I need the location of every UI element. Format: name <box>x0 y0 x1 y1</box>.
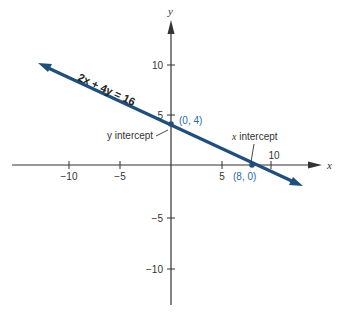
x-tick-label: −5 <box>114 171 126 182</box>
x-axis-arrow-icon <box>308 162 322 169</box>
y-axis-label: y <box>167 5 173 17</box>
x-intercept-point <box>249 162 255 168</box>
y-intercept-point <box>168 121 174 127</box>
y-tick-label: −10 <box>146 264 163 275</box>
y-axis-arrow-icon <box>168 20 175 34</box>
y-tick-label: −5 <box>152 213 164 224</box>
y-intercept-callout: y intercept <box>107 130 168 141</box>
x-intercept-callout-rest: intercept <box>236 131 277 142</box>
x-intercept-coordinates: (8, 0) <box>233 171 256 182</box>
x-axis: x <box>12 159 332 171</box>
x-tick-label: 5 <box>219 171 225 182</box>
x-tick-label: 10 <box>268 150 280 161</box>
y-tick-label: 10 <box>152 60 164 71</box>
y-intercept-callout-text: y intercept <box>107 130 153 141</box>
coordinate-plane: x y −10 −5 5 10 10 5 −5 −10 2x + 4y = 16 <box>0 0 340 317</box>
y-axis: y <box>167 5 175 305</box>
y-intercept-coordinates: (0, 4) <box>179 115 202 126</box>
equation-label: 2x + 4y = 16 <box>76 71 137 108</box>
x-tick-label: −10 <box>61 171 78 182</box>
line-arrow-right-icon <box>289 177 303 186</box>
x-axis-label: x <box>326 159 332 171</box>
x-intercept-callout-text: x intercept <box>231 131 278 142</box>
line-arrow-left-icon <box>38 63 52 72</box>
